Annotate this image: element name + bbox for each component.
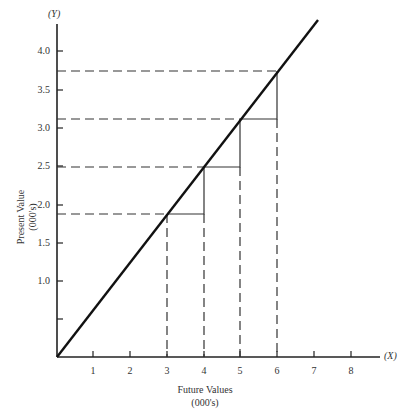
x-tick-label: 2 (122, 365, 138, 376)
y-tick-label: 1.0 (20, 275, 50, 286)
x-tick-label: 1 (85, 365, 101, 376)
y-axis-title-text: Present Value (15, 172, 27, 262)
y-axis-marker: (Y) (48, 8, 60, 19)
y-tick-label: 2.5 (20, 160, 50, 171)
x-tick-label: 3 (159, 365, 175, 376)
y-axis-title-units: (000's) (27, 172, 39, 262)
x-axis-title-text: Future Values (150, 383, 260, 396)
chart-canvas (0, 0, 410, 414)
x-axis-title: Future Values (000's) (150, 383, 260, 409)
x-tick-label: 7 (306, 365, 322, 376)
x-tick-label: 8 (343, 365, 359, 376)
x-tick-label: 6 (269, 365, 285, 376)
y-tick-label: 4.0 (20, 45, 50, 56)
y-axis-title: Present Value (000's) (15, 172, 39, 262)
x-tick-label: 5 (232, 365, 248, 376)
y-ticks (57, 51, 63, 319)
y-tick-label: 3.0 (20, 122, 50, 133)
y-tick-label: 3.5 (20, 84, 50, 95)
x-ticks (93, 351, 351, 357)
x-axis-marker: (X) (384, 350, 397, 361)
x-tick-label: 4 (196, 365, 212, 376)
x-axis-title-units: (000's) (150, 396, 260, 409)
